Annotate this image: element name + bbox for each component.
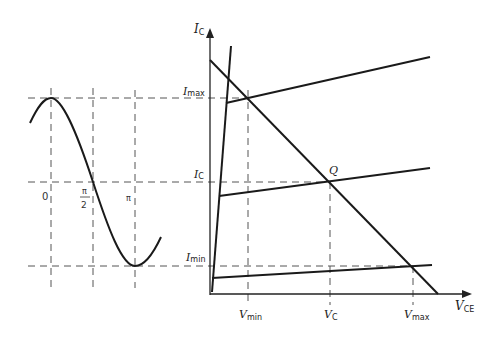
vc-label: VC: [324, 308, 338, 322]
characteristic-curve-imax: [226, 57, 430, 103]
ic-axis-arrow-icon: [206, 28, 214, 38]
ic-level-label: IC: [193, 168, 204, 181]
phase-half-pi-denominator: 2: [81, 200, 87, 210]
transistor-load-line-diagram: 0 π 2 π IC Imax IC Imin Q Vmin VC Vmax V…: [0, 0, 497, 340]
vmax-label: Vmax: [404, 308, 430, 322]
saturation-line: [212, 46, 231, 292]
characteristic-curve-imin: [212, 265, 432, 278]
vmin-label: Vmin: [239, 308, 262, 322]
vce-axis-arrow-icon: [462, 290, 472, 298]
load-line: [210, 60, 438, 294]
vce-axis-label: VCE: [455, 299, 474, 314]
phase-0-label: 0: [42, 191, 48, 202]
q-point-label: Q: [329, 164, 338, 177]
phase-pi-label: π: [126, 194, 131, 203]
ic-axis-label: IC: [193, 22, 205, 37]
imin-label: Imin: [185, 251, 205, 264]
imax-label: Imax: [182, 85, 205, 98]
phase-half-pi-numerator: π: [82, 187, 87, 196]
